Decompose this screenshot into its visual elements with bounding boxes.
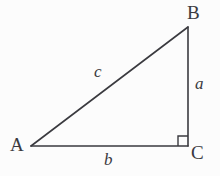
right-angle-marker-icon <box>178 136 188 146</box>
right-triangle-figure: A B C c a b <box>0 0 220 176</box>
vertex-label-b: B <box>187 3 200 22</box>
side-label-c: c <box>94 63 102 80</box>
edge-hypotenuse-c <box>31 27 188 146</box>
side-label-b: b <box>104 151 113 168</box>
vertex-label-c: C <box>191 143 204 162</box>
vertex-label-a: A <box>10 135 24 154</box>
side-label-a: a <box>195 75 204 92</box>
